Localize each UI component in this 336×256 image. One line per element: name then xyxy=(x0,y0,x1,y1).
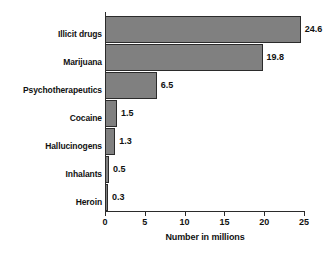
x-axis-title: Number in millions xyxy=(105,232,305,242)
bar-chart: Illicit drugs Marijuana Psychotherapeuti… xyxy=(0,0,336,256)
bar-value-1: 19.8 xyxy=(267,52,285,62)
category-label-3: Cocaine xyxy=(0,113,102,123)
bar-value-4: 1.3 xyxy=(119,136,132,146)
x-tick-1 xyxy=(145,212,146,216)
x-tick-5 xyxy=(304,212,305,216)
bar-2 xyxy=(105,72,157,99)
category-label-6: Heroin xyxy=(0,197,102,207)
x-tick-label-1: 5 xyxy=(132,217,158,228)
category-label-0: Illicit drugs xyxy=(0,29,102,39)
bar-value-3: 1.5 xyxy=(121,108,134,118)
bar-3 xyxy=(105,100,117,127)
category-label-5: Inhalants xyxy=(0,169,102,179)
plot-area: 24.6 19.8 6.5 1.5 1.3 0.5 0.3 xyxy=(105,12,304,211)
category-label-4: Hallucinogens xyxy=(0,141,102,151)
x-tick-3 xyxy=(224,212,225,216)
x-tick-label-2: 10 xyxy=(172,217,198,228)
category-label-2: Psychotherapeutics xyxy=(0,85,102,95)
x-tick-label-4: 20 xyxy=(251,217,277,228)
x-tick-4 xyxy=(264,212,265,216)
bar-1 xyxy=(105,44,263,71)
x-tick-label-3: 15 xyxy=(211,217,237,228)
bar-4 xyxy=(105,128,115,155)
bar-value-5: 0.5 xyxy=(113,164,126,174)
bar-0 xyxy=(105,16,301,43)
bar-value-0: 24.6 xyxy=(305,24,323,34)
x-tick-label-0: 0 xyxy=(92,217,118,228)
category-label-1: Marijuana xyxy=(0,57,102,67)
x-axis-line xyxy=(105,211,305,212)
bar-value-2: 6.5 xyxy=(161,80,174,90)
x-tick-label-5: 25 xyxy=(291,217,317,228)
category-axis-labels: Illicit drugs Marijuana Psychotherapeuti… xyxy=(0,12,102,211)
x-tick-0 xyxy=(105,212,106,216)
x-tick-2 xyxy=(185,212,186,216)
y-axis-line xyxy=(105,12,106,212)
bar-value-6: 0.3 xyxy=(112,192,125,202)
